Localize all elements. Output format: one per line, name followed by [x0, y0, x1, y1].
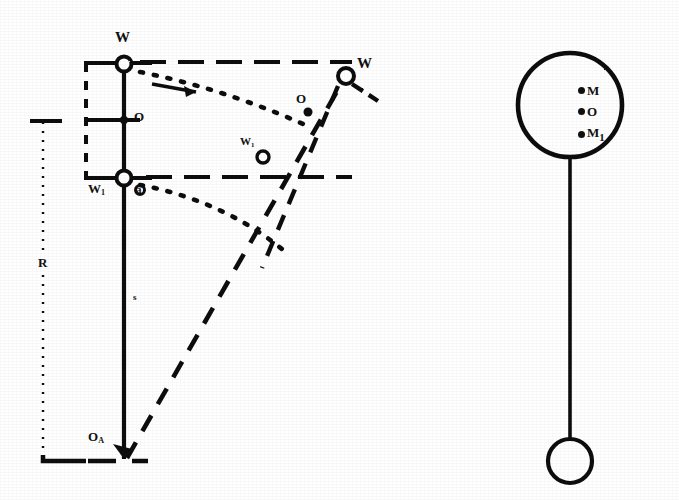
label-w1-bottom: W1	[88, 182, 105, 197]
marker-w-top	[117, 57, 132, 72]
label-w1-prime: W1	[240, 136, 254, 148]
point-label-m1: M1	[578, 126, 605, 142]
bob-small-circle	[548, 439, 592, 483]
label-pivot-o-text: O	[88, 429, 98, 444]
label-o-mid: O	[134, 110, 144, 123]
marker-w1-prime	[257, 151, 269, 163]
label-w1-prime-sub: 1	[251, 141, 254, 148]
marker-w1-bottom	[117, 171, 132, 186]
marker-o-prime	[304, 108, 313, 117]
label-w1-bottom-text: W	[88, 181, 101, 196]
rod-displaced	[127, 74, 347, 458]
marker-w-prime	[338, 68, 354, 84]
label-o-prime: O	[296, 92, 306, 105]
bob-large-circle	[518, 53, 622, 157]
label-w-prime-text: W	[357, 55, 372, 71]
point-text-m1-letter: M	[587, 125, 599, 140]
point-label-m: M	[578, 84, 599, 97]
point-dot-m-icon	[578, 87, 585, 94]
label-length-s: s	[133, 293, 137, 302]
figure-svg	[0, 0, 679, 500]
point-text-m: M	[587, 84, 599, 97]
point-text-m1: M1	[587, 126, 605, 142]
label-pivot-o-sub: A	[98, 436, 104, 445]
swing-arc-top	[140, 72, 312, 128]
label-w-top: W	[115, 30, 130, 45]
swing-direction-arrow	[152, 84, 196, 97]
label-a-marker: a	[136, 184, 142, 195]
point-label-o: O	[578, 105, 597, 118]
label-w-prime: W	[357, 56, 372, 71]
swing-arc-bottom	[140, 185, 290, 256]
point-text-o: O	[587, 105, 597, 118]
label-w1-prime-text: W	[240, 135, 251, 147]
point-dot-m1-icon	[578, 131, 585, 138]
point-text-m1-sub: 1	[599, 131, 604, 143]
velocity-tail-w-prime	[352, 84, 378, 101]
dimension-tick-bottom-r	[43, 455, 86, 461]
label-dimension-r: R	[38, 255, 47, 270]
label-pivot-o: OA	[88, 430, 104, 445]
marker-o-mid	[120, 116, 128, 124]
point-dot-o-icon	[578, 108, 585, 115]
figure-page: W O W1 a W O W1 R s OA M O M1	[0, 0, 679, 500]
label-w1-bottom-sub: 1	[101, 188, 105, 197]
